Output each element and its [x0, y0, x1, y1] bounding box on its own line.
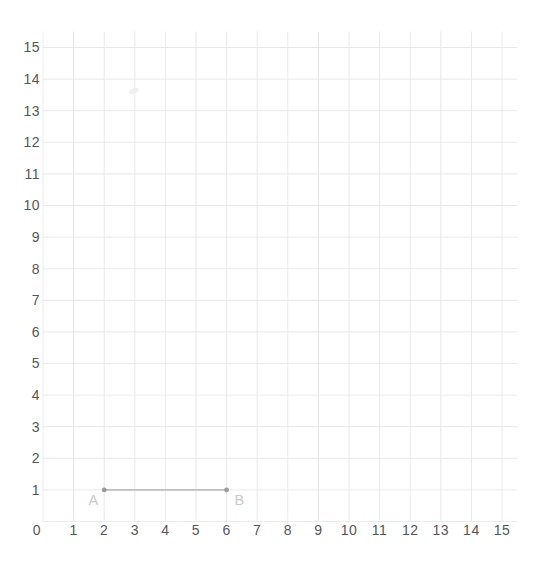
x-tick-label-6: 6	[222, 522, 230, 538]
grid-plot-canvas: 0123456789101112131415123456789101112131…	[0, 0, 545, 565]
x-tick-label-14: 14	[463, 522, 480, 538]
x-tick-label-7: 7	[253, 522, 261, 538]
y-tick-label-6: 6	[32, 324, 40, 340]
y-tick-label-11: 11	[24, 166, 40, 182]
x-tick-label-0: 0	[33, 522, 41, 538]
x-tick-label-8: 8	[284, 522, 292, 538]
x-tick-label-15: 15	[494, 522, 511, 538]
coordinate-grid-figure: 0123456789101112131415123456789101112131…	[0, 0, 545, 565]
y-tick-label-2: 2	[32, 450, 40, 466]
x-tick-label-1: 1	[69, 522, 77, 538]
plot-background	[0, 0, 545, 565]
y-tick-label-5: 5	[32, 355, 40, 371]
point-a	[102, 488, 107, 493]
point-label-b: B	[235, 492, 245, 508]
x-tick-label-13: 13	[433, 522, 450, 538]
y-tick-label-7: 7	[32, 292, 40, 308]
x-tick-label-11: 11	[372, 522, 388, 538]
y-tick-label-1: 1	[32, 482, 40, 498]
point-b	[224, 488, 229, 493]
x-tick-label-4: 4	[161, 522, 169, 538]
y-tick-label-10: 10	[23, 197, 40, 213]
y-tick-label-3: 3	[32, 419, 40, 435]
y-tick-label-14: 14	[23, 71, 40, 87]
y-tick-label-8: 8	[32, 261, 40, 277]
x-tick-label-3: 3	[131, 522, 139, 538]
y-tick-label-15: 15	[23, 39, 40, 55]
y-tick-label-9: 9	[32, 229, 40, 245]
point-label-a: A	[89, 492, 99, 508]
x-tick-label-9: 9	[314, 522, 322, 538]
y-tick-label-4: 4	[32, 387, 40, 403]
x-tick-label-5: 5	[192, 522, 200, 538]
x-tick-label-2: 2	[100, 522, 108, 538]
x-tick-label-10: 10	[341, 522, 358, 538]
y-tick-label-12: 12	[23, 134, 40, 150]
x-tick-label-12: 12	[402, 522, 419, 538]
y-tick-label-13: 13	[23, 103, 40, 119]
